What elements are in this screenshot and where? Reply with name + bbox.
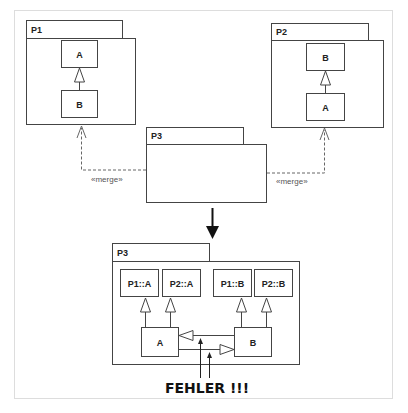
class-b: B <box>235 328 272 357</box>
package-body <box>147 145 267 203</box>
class-p2-a: P2::A <box>163 270 201 297</box>
class-b: B <box>307 44 345 71</box>
class-p2-b: P2::B <box>255 270 293 297</box>
uml-package-merge-diagram: P1 A B P2 B A <box>0 0 408 413</box>
merge-dependency-p2: «merge» <box>267 128 329 186</box>
class-label: A <box>157 338 164 348</box>
class-label: B <box>250 338 257 348</box>
merge-label: «merge» <box>276 177 308 186</box>
class-p1-a: P1::A <box>121 270 159 297</box>
class-a: A <box>307 94 345 121</box>
package-p3-source: P3 <box>147 128 267 203</box>
class-label: P2::A <box>170 279 194 289</box>
package-name: P3 <box>117 248 128 258</box>
merge-dependency-p1: «merge» <box>77 126 146 184</box>
package-name: P3 <box>151 131 162 141</box>
class-p1-b: P1::B <box>214 270 252 297</box>
merge-label: «merge» <box>91 175 123 184</box>
class-label: P1::A <box>128 279 152 289</box>
package-name: P1 <box>31 25 42 35</box>
error-label: FEHLER !!! <box>165 380 249 396</box>
class-a: A <box>62 41 98 68</box>
package-p2: P2 B A <box>272 24 384 128</box>
class-label: P1::B <box>221 279 245 289</box>
package-p1: P1 A B <box>27 21 136 125</box>
class-label: B <box>322 53 329 63</box>
package-name: P2 <box>276 27 287 37</box>
class-label: P2::B <box>262 279 286 289</box>
class-label: B <box>76 100 83 110</box>
class-b: B <box>62 91 98 118</box>
result-arrow-icon <box>206 208 219 239</box>
package-p3-result: P3 P1::A P2::A P1::B P2::B A B <box>113 244 300 365</box>
class-a: A <box>142 328 179 357</box>
class-label: A <box>322 103 329 113</box>
class-label: A <box>76 50 83 60</box>
